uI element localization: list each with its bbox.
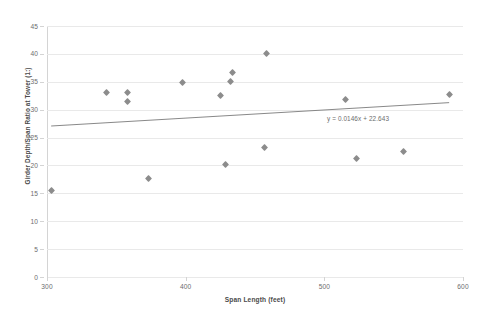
y-axis-tick-label: 0 bbox=[14, 274, 38, 281]
y-axis-tick bbox=[40, 54, 44, 55]
plot-area bbox=[47, 26, 463, 277]
y-axis-tick bbox=[40, 277, 44, 278]
y-axis-tick bbox=[40, 138, 44, 139]
y-axis-tick bbox=[40, 110, 44, 111]
y-axis-title: Girder Depth/Span Ratio at Tower (1:) bbox=[24, 21, 32, 231]
scatter-chart: 051015202530354045 300400500600 Girder D… bbox=[0, 0, 487, 317]
gridline bbox=[47, 277, 463, 278]
y-axis-tick bbox=[40, 82, 44, 83]
y-axis-tick bbox=[40, 26, 44, 27]
y-axis-tick bbox=[40, 193, 44, 194]
x-axis-title: Span Length (feet) bbox=[47, 296, 463, 304]
x-axis-tick-label: 500 bbox=[304, 283, 344, 291]
x-axis-tick bbox=[463, 277, 464, 281]
trendline-equation-label: y = 0.0146x + 22.643 bbox=[327, 115, 389, 123]
x-axis-tick-label: 300 bbox=[27, 283, 67, 291]
x-axis-tick bbox=[186, 277, 187, 281]
y-axis-tick bbox=[40, 249, 44, 250]
x-axis-tick bbox=[324, 277, 325, 281]
y-axis-tick bbox=[40, 165, 44, 166]
x-axis-tick-label: 600 bbox=[443, 283, 483, 291]
x-axis-tick bbox=[47, 277, 48, 281]
x-axis-tick-label: 400 bbox=[166, 283, 206, 291]
y-axis-tick-label: 5 bbox=[14, 246, 38, 253]
y-axis-tick bbox=[40, 221, 44, 222]
